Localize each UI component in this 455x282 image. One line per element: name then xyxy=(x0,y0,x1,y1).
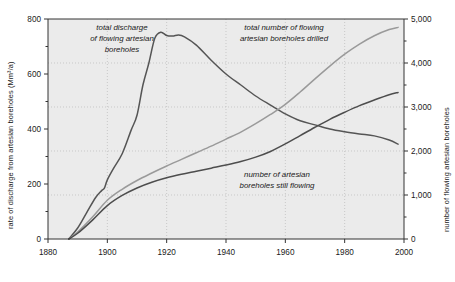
x-tick-label: 1980 xyxy=(336,248,355,257)
y-tick-label-right: 0 xyxy=(411,235,416,244)
x-tick-label: 1960 xyxy=(276,248,295,257)
y-tick-label-left: 400 xyxy=(27,125,41,134)
x-tick-label: 1900 xyxy=(98,248,117,257)
y-tick-label-right: 3,000 xyxy=(411,103,432,112)
y-tick-label-right: 4,000 xyxy=(411,59,432,68)
x-tick-label: 2000 xyxy=(395,248,414,257)
annotation-still-flowing-line1: number of artesian xyxy=(244,170,310,179)
annotation-discharge-line1: total discharge xyxy=(96,23,148,32)
y-tick-label-left: 0 xyxy=(36,235,41,244)
chart-figure: 1880190019201940196019802000020040060080… xyxy=(0,0,455,282)
x-tick-label: 1880 xyxy=(39,248,58,257)
annotation-still-flowing-line2: boreholes still flowing xyxy=(240,181,316,190)
y-tick-label-right: 1,000 xyxy=(411,191,432,200)
y-tick-label-left: 800 xyxy=(27,15,41,24)
annotation-discharge-line2: of flowing artesian xyxy=(90,34,154,43)
annotation-drilled-line1: total number of flowing xyxy=(244,23,324,32)
annotation-drilled-line2: artesian boreholes drilled xyxy=(240,34,329,43)
y-tick-label-right: 5,000 xyxy=(411,15,432,24)
x-tick-label: 1940 xyxy=(217,248,236,257)
y-axis-left-title: rate of discharge from artesian borehole… xyxy=(6,61,15,229)
y-tick-label-right: 2,000 xyxy=(411,147,432,156)
y-axis-right-title: number of flowing artesian boreholes xyxy=(442,107,451,232)
y-tick-label-left: 600 xyxy=(27,70,41,79)
x-tick-label: 1920 xyxy=(158,248,177,257)
y-tick-label-left: 200 xyxy=(27,180,41,189)
artesian-boreholes-line-chart: 1880190019201940196019802000020040060080… xyxy=(0,0,455,282)
annotation-discharge-line3: boreholes xyxy=(105,45,140,54)
